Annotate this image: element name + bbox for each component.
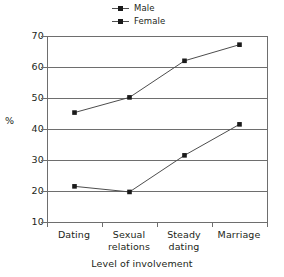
legend-label-female: Female	[129, 16, 165, 27]
x-label-line: dating	[153, 241, 215, 253]
x-tick-mark	[47, 222, 48, 227]
x-axis-title: Level of involvement	[0, 258, 284, 269]
x-tick-label-dating: Dating	[43, 229, 105, 241]
x-label-line: relations	[98, 241, 160, 253]
x-label-line: Dating	[43, 229, 105, 241]
legend-marker-square-icon	[112, 16, 129, 27]
x-label-line: Sexual	[98, 229, 160, 241]
legend-item-male: Male	[112, 2, 202, 14]
y-tick-label-10: 10	[14, 217, 44, 227]
series-lines	[47, 36, 268, 222]
y-axis-title: %	[5, 115, 14, 126]
x-label-line: Steady	[153, 229, 215, 241]
x-tick-mark	[212, 222, 213, 227]
x-tick-mark	[102, 222, 103, 227]
series-markers-male	[72, 122, 242, 194]
y-tick-label-70: 70	[14, 31, 44, 41]
series-line-female	[75, 45, 240, 113]
x-tick-label-marriage: Marriage	[208, 229, 270, 241]
legend-item-female: Female	[112, 15, 202, 27]
x-tick-mark	[157, 222, 158, 227]
chart-figure: Male Female % 70 60 50 40 30 20 10	[0, 0, 284, 277]
y-tick-label-30: 30	[14, 155, 44, 165]
y-tick-label-60: 60	[14, 62, 44, 72]
series-line-male	[75, 124, 240, 192]
plot-area	[47, 36, 268, 222]
y-tick-label-40: 40	[14, 124, 44, 134]
y-tick-label-50: 50	[14, 93, 44, 103]
x-tick-label-steady-dating: Steady dating	[153, 229, 215, 252]
chart-legend: Male Female	[112, 2, 202, 28]
legend-label-male: Male	[129, 3, 155, 14]
x-tick-label-sexual-relations: Sexual relations	[98, 229, 160, 252]
x-label-line: Marriage	[208, 229, 270, 241]
legend-marker-square-icon	[112, 3, 129, 14]
x-tick-mark	[267, 222, 268, 227]
y-tick-label-20: 20	[14, 186, 44, 196]
